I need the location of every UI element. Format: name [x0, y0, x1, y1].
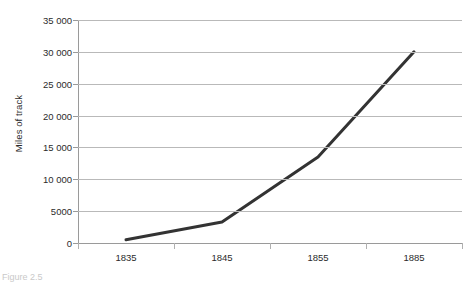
gridline	[78, 147, 462, 148]
gridline	[78, 179, 462, 180]
x-axis-tick-mark	[366, 243, 367, 249]
x-axis-tick-marks	[78, 243, 463, 250]
x-axis-tick-label: 1855	[270, 252, 366, 263]
x-axis-tick-labels: 1835184518551885	[78, 252, 462, 268]
x-axis-tick-mark	[462, 243, 463, 249]
line-chart-figure: Miles of track 0500010 00015 00020 00025…	[0, 0, 473, 282]
x-axis-tick-label: 1845	[174, 252, 270, 263]
plot-area	[78, 20, 462, 243]
gridline	[78, 52, 462, 53]
x-axis-tick-mark	[270, 243, 271, 249]
x-axis-tick-mark	[174, 243, 175, 249]
y-axis-tick-marks	[0, 20, 78, 243]
series-line-miles-of-track	[78, 20, 462, 243]
figure-caption: Figure 2.5	[2, 272, 43, 282]
x-axis-tick-mark	[78, 243, 79, 249]
gridline	[78, 211, 462, 212]
gridline	[78, 20, 462, 21]
gridline	[78, 84, 462, 85]
gridline	[78, 116, 462, 117]
x-axis-tick-label: 1885	[366, 252, 462, 263]
x-axis-tick-label: 1835	[78, 252, 174, 263]
